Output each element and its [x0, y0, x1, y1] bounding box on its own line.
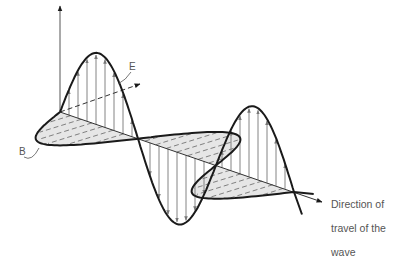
- direction-of-travel-label: Direction of travel of the wave: [331, 186, 386, 260]
- direction-label-line-3: wave: [331, 246, 386, 258]
- b-leader: [24, 148, 39, 158]
- magnetic-field-plane: [36, 112, 294, 199]
- e-label: E: [129, 61, 136, 72]
- direction-label-line-1: Direction of: [331, 198, 386, 210]
- direction-label-line-2: travel of the: [331, 222, 386, 234]
- b-label: B: [19, 146, 26, 157]
